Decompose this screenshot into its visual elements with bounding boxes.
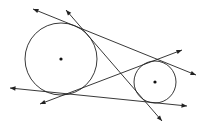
arrow-start-icon	[10, 86, 16, 90]
external-tangent-top-segment	[33, 9, 196, 75]
small-circle-center-dot	[153, 80, 156, 83]
arrow-start-icon	[33, 9, 39, 13]
arrow-end-icon	[176, 50, 182, 54]
arrow-end-icon	[181, 103, 187, 107]
internal-tangent-steep-segment	[66, 10, 162, 121]
large-circle-center-dot	[59, 57, 62, 60]
tangent-circles-diagram	[0, 0, 198, 125]
small-circle	[134, 61, 176, 103]
external-tangent-bottom-segment	[10, 88, 187, 106]
arrow-end-icon	[190, 71, 196, 75]
tangent-lines-layer	[10, 9, 196, 121]
circles-layer	[25, 23, 176, 103]
arrow-start-icon	[40, 100, 46, 104]
external-tangent-top	[33, 9, 196, 75]
external-tangent-bottom	[10, 86, 187, 107]
internal-tangent-steep	[66, 10, 162, 121]
